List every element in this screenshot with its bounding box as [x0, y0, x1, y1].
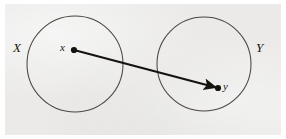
- point-dot-y: [215, 85, 221, 91]
- figure-root: X Y x y: [0, 0, 286, 139]
- point-label-x: x: [60, 42, 65, 53]
- point-label-y: y: [223, 81, 228, 92]
- set-circle-codomain: [157, 17, 251, 111]
- set-label-y: Y: [256, 41, 263, 54]
- mapping-arrow: [74, 50, 216, 88]
- set-circle-domain: [27, 16, 123, 112]
- set-label-x: X: [13, 41, 21, 54]
- point-dot-x: [71, 47, 77, 53]
- set-mapping-diagram: [0, 0, 286, 139]
